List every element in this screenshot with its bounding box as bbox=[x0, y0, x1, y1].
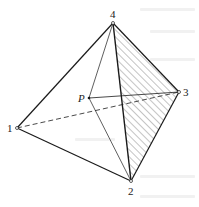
edge-1-4 bbox=[17, 23, 113, 128]
point-p-marker bbox=[88, 97, 91, 100]
edge-1-2 bbox=[17, 128, 131, 181]
vertex-2-marker bbox=[130, 180, 133, 183]
hatched-face-4-2-3 bbox=[113, 23, 179, 181]
vertex-4-marker bbox=[112, 22, 115, 25]
point-p-label: P bbox=[77, 92, 85, 104]
tetrahedron-diagram: 1 2 3 4 P bbox=[0, 0, 199, 207]
vertex-1-label: 1 bbox=[7, 122, 13, 134]
vertex-4-label: 4 bbox=[110, 8, 116, 20]
vertex-2-label: 2 bbox=[128, 185, 134, 197]
line-p-4 bbox=[89, 23, 113, 98]
vertex-3-marker bbox=[178, 91, 181, 94]
vertex-3-label: 3 bbox=[183, 86, 189, 98]
vertex-1-marker bbox=[16, 127, 19, 130]
